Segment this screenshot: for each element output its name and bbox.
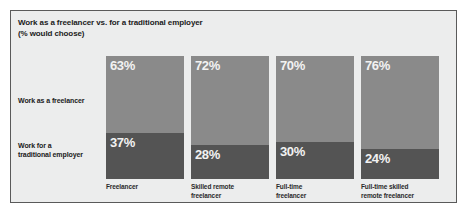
bar-value-label: 72%	[195, 58, 220, 73]
plot-area: 63% 37% Freelancer 72% 28% Skilled remot…	[106, 56, 456, 201]
bar-segment-employer: 28%	[191, 145, 269, 179]
bar-value-label: 28%	[195, 147, 220, 162]
bar-value-label: 70%	[280, 58, 305, 73]
chart-frame: Work as a freelancer vs. for a tradition…	[10, 10, 457, 203]
chart-title: Work as a freelancer vs. for a tradition…	[18, 18, 203, 39]
bar-value-label: 24%	[365, 151, 390, 166]
category-label: Full-time skilled remote freelancer	[361, 183, 445, 200]
bar-segment-employer: 24%	[361, 149, 439, 179]
bar-value-label: 30%	[280, 144, 305, 159]
bar-stack: 72% 28%	[191, 56, 269, 179]
bar-value-label: 76%	[365, 58, 390, 73]
category-label: Full-time freelancer	[276, 183, 360, 200]
bar-segment-freelance: 72%	[191, 56, 269, 145]
bar-stack: 76% 24%	[361, 56, 439, 179]
bar-column-freelancer: 63% 37% Freelancer	[106, 56, 184, 179]
category-label: Freelancer	[106, 183, 190, 192]
category-label: Skilled remote freelancer	[191, 183, 275, 200]
bar-stack: 63% 37%	[106, 56, 184, 179]
bar-segment-employer: 37%	[106, 133, 184, 179]
bar-segment-freelance: 63%	[106, 56, 184, 133]
bar-value-label: 63%	[110, 58, 135, 73]
bar-column-skilled-remote-freelancer: 72% 28% Skilled remote freelancer	[191, 56, 269, 179]
row-label-work-for-traditional-employer: Work for a traditional employer	[18, 141, 104, 159]
bar-segment-freelance: 76%	[361, 56, 439, 149]
bar-column-full-time-skilled-remote-freelancer: 76% 24% Full-time skilled remote freelan…	[361, 56, 439, 179]
bar-stack: 70% 30%	[276, 56, 354, 179]
bar-column-full-time-freelancer: 70% 30% Full-time freelancer	[276, 56, 354, 179]
bar-segment-freelance: 70%	[276, 56, 354, 142]
bar-value-label: 37%	[110, 135, 135, 150]
bar-segment-employer: 30%	[276, 142, 354, 179]
row-label-work-as-freelancer: Work as a freelancer	[18, 96, 104, 105]
